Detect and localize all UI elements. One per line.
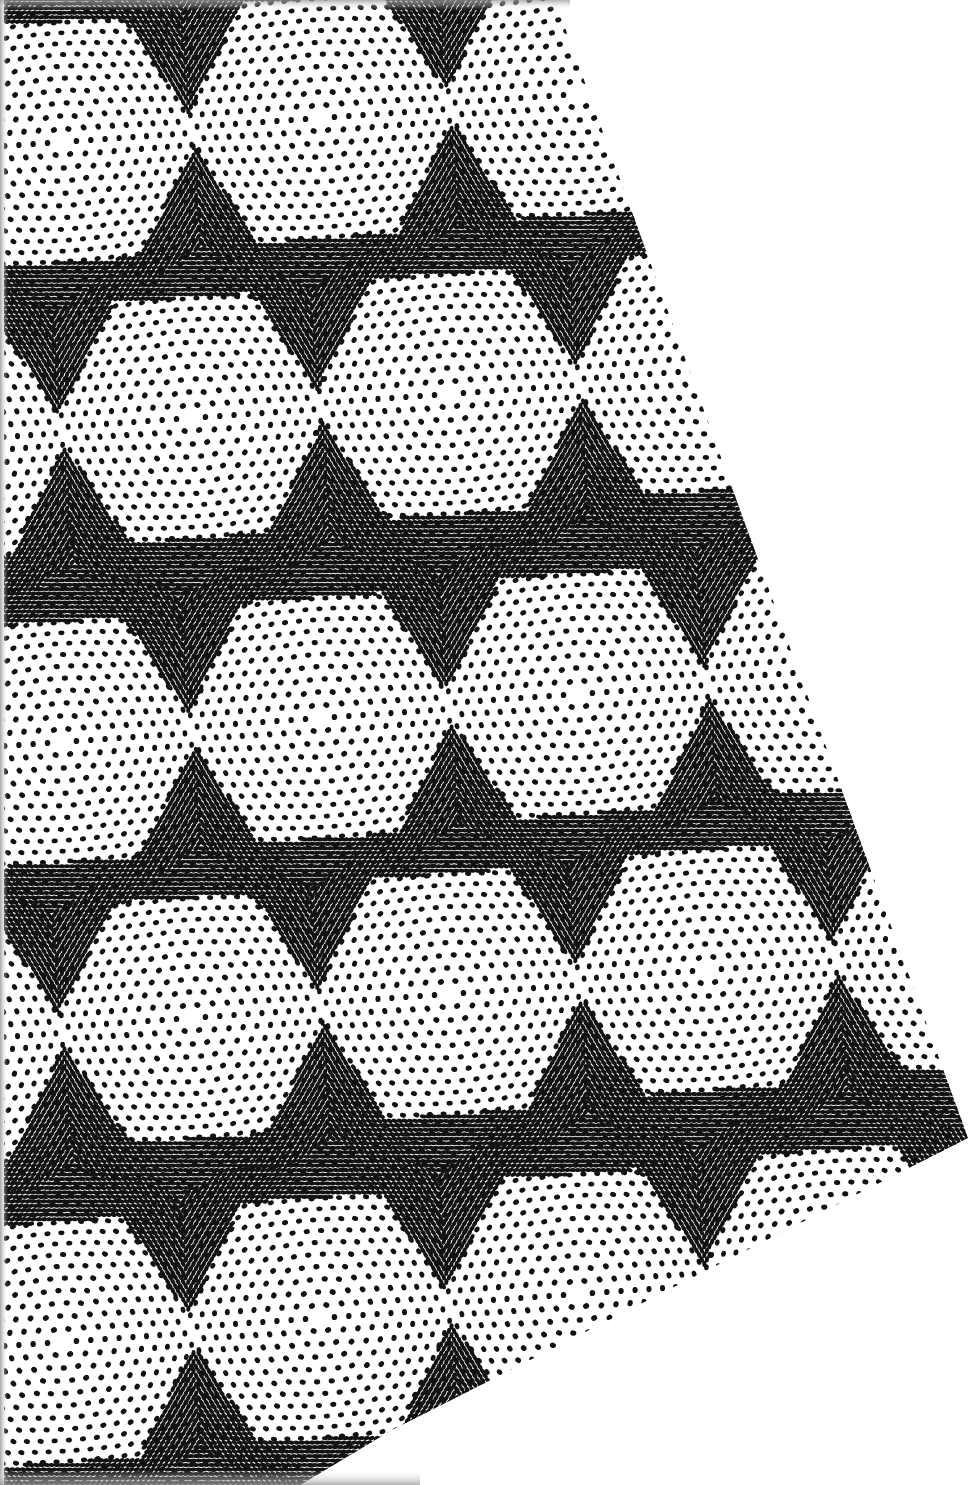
dot-moire-artwork: [0, 0, 976, 1485]
artwork-canvas: Hexagonal Dot Moire Field Black halftone…: [0, 0, 976, 1485]
